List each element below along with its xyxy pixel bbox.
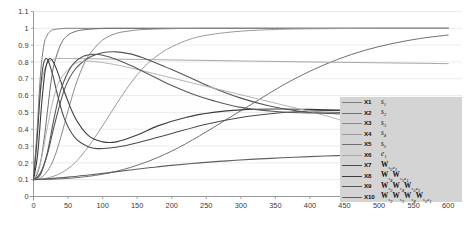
legend-color-swatch [342,123,362,124]
x-tick-label: 150 [131,201,143,210]
legend-color-swatch [342,176,362,177]
x-tick-label: 400 [304,201,316,210]
legend-item-x1[interactable]: X1s1 [340,97,462,108]
legend-color-swatch [342,186,362,187]
y-tick-label: 0.6 [18,91,28,100]
x-tick-label: 600 [442,201,454,210]
legend-item-x10[interactable]: X10Ws2Ws3Ws4Ws5e1 [340,192,462,203]
y-tick-label: 1 [24,24,28,33]
legend-series-key: X4 [364,130,371,137]
y-tick-label: 0.5 [18,108,28,117]
legend-series-key: X5 [364,140,371,147]
legend-color-swatch [342,165,362,166]
legend-item-x4[interactable]: X4s4 [340,129,462,140]
chart-container: 00.10.20.30.40.50.60.70.80.911.1 0501001… [0,0,470,226]
y-tick-label: 0.9 [18,41,28,50]
y-tick-label: 0.3 [18,142,28,151]
legend-series-expression: Ws2Ws3Ws4Ws5e1 [381,192,432,203]
legend-item-x2[interactable]: X2s2 [340,108,462,119]
y-tick-label: 0.8 [18,58,28,67]
y-tick-labels: 00.10.20.30.40.50.60.70.80.911.1 [18,7,28,201]
legend-color-swatch [342,134,362,135]
x-tick-label: 450 [338,201,350,210]
y-tick-label: 1.1 [18,7,28,16]
y-tick-label: 0 [24,192,28,201]
legend-series-expression: s3 [381,119,386,128]
legend-series-key: X6 [364,151,371,158]
x-tick-label: 250 [200,201,212,210]
legend-item-x6[interactable]: X6e1 [340,150,462,161]
x-tick-label: 100 [96,201,108,210]
legend-series-expression: s1 [381,98,386,107]
x-tick-label: 0 [31,201,35,210]
chart-legend[interactable]: X1s1X2s2X3s3X4s4X5s5X6e1X7Ws5e1X8Ws4Ws5e… [340,97,462,202]
legend-series-expression: s5 [381,140,386,149]
y-tick-label: 0.4 [18,125,28,134]
legend-series-key: X8 [364,172,371,179]
y-tick-label: 0.2 [18,159,28,168]
legend-series-key: X7 [364,161,371,168]
legend-series-expression: e1 [381,150,387,159]
legend-color-swatch [342,102,362,103]
x-tick-label: 200 [166,201,178,210]
legend-series-key: X3 [364,119,371,126]
legend-item-x7[interactable]: X7Ws5e1 [340,160,462,171]
y-tick-label: 0.1 [18,175,28,184]
y-tick-label: 0.7 [18,74,28,83]
legend-series-key: X10 [364,193,375,200]
legend-series-key: X9 [364,182,371,189]
legend-color-swatch [342,197,362,198]
x-tick-label: 300 [235,201,247,210]
legend-series-expression: s4 [381,129,386,138]
x-tick-label: 350 [269,201,281,210]
legend-series-key: X1 [364,98,371,105]
x-tick-label: 50 [64,201,72,210]
legend-item-x8[interactable]: X8Ws4Ws5e1 [340,171,462,182]
legend-series-expression: s2 [381,108,386,117]
legend-color-swatch [342,155,362,156]
legend-color-swatch [342,144,362,145]
legend-color-swatch [342,113,362,114]
legend-item-x3[interactable]: X3s3 [340,118,462,129]
legend-series-key: X2 [364,109,371,116]
legend-item-x9[interactable]: X9Ws3Ws4Ws5e1 [340,181,462,192]
legend-item-x5[interactable]: X5s5 [340,139,462,150]
